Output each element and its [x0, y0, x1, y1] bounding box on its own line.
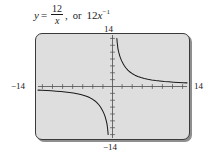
equation-comma: ,	[65, 9, 68, 21]
equation-caption: y = 12 x , or 12x−1	[34, 4, 110, 26]
y-axis-min-label: −14	[103, 143, 117, 152]
curve-branch-lower-left	[38, 90, 108, 134]
equation-alternate-form: 12x−1	[87, 9, 110, 21]
alt-coefficient: 12	[87, 9, 98, 21]
curve-branch-upper-right	[117, 38, 187, 82]
fraction-twelve-over-x: 12 x	[51, 4, 63, 26]
equation-lhs: y	[34, 9, 39, 21]
y-axis-max-label: 14	[104, 25, 113, 34]
fraction-numerator: 12	[51, 4, 63, 15]
equation-conjunction: or	[73, 10, 82, 21]
equation-equals-sign: =	[41, 9, 47, 21]
graph-plot-region: 14 −14 −14 14	[0, 26, 221, 160]
axis-group	[38, 35, 187, 138]
x-axis-min-label: −14	[11, 82, 25, 91]
fraction-denominator: x	[54, 15, 60, 26]
alt-exponent: −1	[103, 8, 110, 16]
graphing-calculator-viewport	[35, 33, 190, 140]
x-axis-max-label: 14	[194, 82, 203, 91]
graph-canvas	[36, 34, 189, 139]
